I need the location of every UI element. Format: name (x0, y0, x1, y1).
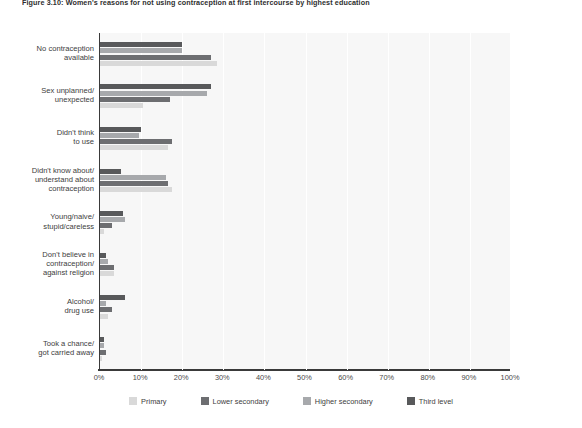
legend-swatch-icon (407, 397, 415, 405)
legend-swatch-icon (201, 397, 209, 405)
bar (100, 84, 211, 89)
gridline (511, 33, 512, 370)
legend-label: Higher secondary (315, 397, 373, 406)
bar (100, 127, 141, 132)
bar (100, 223, 112, 228)
bar (100, 145, 168, 150)
bar (100, 42, 182, 47)
x-axis-line (98, 369, 510, 371)
y-axis-label: Young/naive/ stupid/careless (0, 212, 94, 230)
bar (100, 301, 106, 306)
bar-group (100, 295, 511, 319)
x-axis-tick-label: 50% (285, 373, 325, 382)
bar-group (100, 253, 511, 277)
bar (100, 187, 172, 192)
legend-item[interactable]: Primary (129, 397, 166, 406)
bar-group (100, 211, 511, 235)
bar (100, 181, 168, 186)
bar (100, 217, 125, 222)
legend-swatch-icon (129, 397, 137, 405)
y-axis-label: Don't believe in contraception/ against … (0, 250, 94, 278)
bar-group (100, 169, 511, 193)
y-axis-label: Took a chance/ got carried away (0, 339, 94, 357)
bar (100, 48, 182, 53)
bar (100, 295, 125, 300)
y-axis-label: Sex unplanned/ unexpected (0, 86, 94, 104)
x-axis-tick-label: 40% (243, 373, 283, 382)
x-axis-tick-label: 80% (408, 373, 448, 382)
plot-area (99, 33, 510, 370)
legend-swatch-icon (303, 397, 311, 405)
bar (100, 61, 217, 66)
legend-item[interactable]: Higher secondary (303, 397, 373, 406)
figure-title: Figure 3.10: Women's reasons for not usi… (22, 0, 562, 7)
bar (100, 169, 121, 174)
bar (100, 271, 114, 276)
bar (100, 307, 112, 312)
y-axis-labels: No contraception availableSex unplanned/… (0, 33, 94, 370)
bar-group (100, 337, 511, 361)
bar (100, 337, 104, 342)
bar (100, 211, 123, 216)
chart-legend: PrimaryLower secondaryHigher secondaryTh… (0, 394, 582, 408)
bar (100, 356, 102, 361)
legend-label: Third level (419, 397, 453, 406)
y-axis-label: Didn't know about/ understand about cont… (0, 166, 94, 194)
bar (100, 97, 170, 102)
x-axis-tick-label: 90% (449, 373, 489, 382)
y-axis-label: Didn't think to use (0, 128, 94, 146)
bar (100, 133, 139, 138)
bar (100, 91, 207, 96)
y-axis-label: Alcohol/ drug use (0, 297, 94, 315)
bar (100, 259, 108, 264)
bar (100, 253, 106, 258)
bar-group (100, 42, 511, 66)
bar (100, 55, 211, 60)
x-axis-tick-label: 60% (326, 373, 366, 382)
bar-group (100, 84, 511, 108)
x-axis-tick-labels: 0%10%20%30%40%50%60%70%80%90%100% (0, 373, 582, 387)
legend-label: Primary (141, 397, 166, 406)
legend-item[interactable]: Third level (407, 397, 453, 406)
x-axis-tick-label: 30% (202, 373, 242, 382)
bar-group (100, 127, 511, 151)
x-axis-tick-label: 10% (120, 373, 160, 382)
bar (100, 139, 172, 144)
bar (100, 265, 114, 270)
legend-label: Lower secondary (213, 397, 269, 406)
y-axis-label: No contraception available (0, 44, 94, 62)
bar (100, 350, 106, 355)
figure-container: Figure 3.10: Women's reasons for not usi… (0, 0, 582, 428)
bar (100, 314, 108, 319)
x-axis-tick-label: 70% (367, 373, 407, 382)
bar (100, 175, 166, 180)
bar (100, 229, 104, 234)
x-axis-tick-label: 100% (490, 373, 530, 382)
bar (100, 103, 143, 108)
bar (100, 343, 104, 348)
x-axis-tick-label: 0% (79, 373, 119, 382)
x-axis-tick-label: 20% (161, 373, 201, 382)
legend-item[interactable]: Lower secondary (201, 397, 269, 406)
